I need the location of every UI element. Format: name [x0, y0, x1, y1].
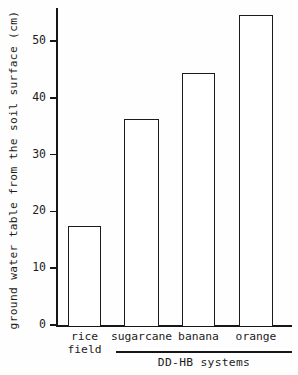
x-tick-label-line1: rice	[71, 330, 98, 343]
y-tick-0	[50, 324, 58, 326]
bar-sugarcane	[124, 119, 159, 326]
y-tick-label-30: 30	[32, 149, 46, 161]
x-tick-label-line1: banana	[178, 330, 219, 343]
y-tick-10	[50, 267, 58, 269]
chart-figure: ground water table from the soil surface…	[0, 0, 298, 375]
y-tick-30	[50, 154, 58, 156]
y-tick-50	[50, 40, 58, 42]
y-tick-label-40: 40	[32, 92, 46, 104]
y-tick-label-50: 50	[32, 35, 46, 47]
bar-orange	[239, 15, 273, 326]
bar-banana	[182, 73, 215, 326]
x-tick-label-line1: orange	[236, 330, 277, 343]
plot-area: 01020304050 ricefieldsugarcanebananaoran…	[0, 0, 298, 375]
y-tick-label-20: 20	[32, 205, 46, 217]
x-tick-label-orange: orange	[214, 330, 298, 343]
y-tick-label-10: 10	[32, 262, 46, 274]
group-bracket-rule	[116, 351, 292, 353]
y-axis-line	[56, 8, 58, 327]
bar-rice-field	[68, 226, 101, 326]
y-tick-label-0: 0	[39, 319, 46, 331]
y-tick-40	[50, 97, 58, 99]
x-tick-label-line2: field	[43, 343, 127, 356]
x-axis-title: DD-HB systems	[116, 356, 292, 369]
y-tick-20	[50, 211, 58, 213]
